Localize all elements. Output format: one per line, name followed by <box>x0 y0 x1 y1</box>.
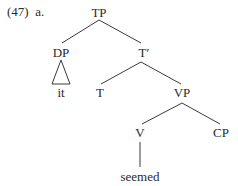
branch-tbar-vp <box>141 62 181 84</box>
syntax-tree-branches <box>0 0 238 186</box>
node-cp: CP <box>213 126 229 139</box>
node-t: T <box>96 86 104 99</box>
node-tp: TP <box>91 6 106 19</box>
branch-tp-dp <box>62 20 99 43</box>
node-v: V <box>135 126 144 139</box>
node-t-bar: T′ <box>139 46 150 59</box>
branch-tbar-t <box>101 62 141 84</box>
node-dp: DP <box>53 46 70 59</box>
node-vp: VP <box>174 86 191 99</box>
branch-tp-tbar <box>99 20 141 43</box>
dp-triangle <box>52 60 70 84</box>
node-it: it <box>57 86 64 99</box>
node-seemed: seemed <box>121 170 160 183</box>
branch-vp-cp <box>182 103 220 124</box>
branch-vp-v <box>142 103 182 124</box>
